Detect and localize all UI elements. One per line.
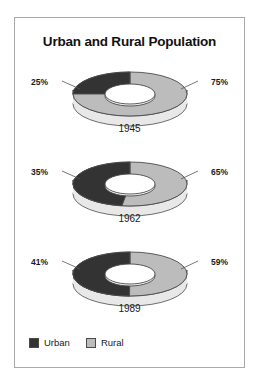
percent-label-rural: 59% xyxy=(211,257,228,267)
donut-group-1962: 35% 65% 1962 xyxy=(15,148,244,236)
chart-card: Urban and Rural Population xyxy=(14,17,245,368)
legend-label-urban: Urban xyxy=(44,337,70,348)
year-label: 1989 xyxy=(15,303,244,314)
donut-chart-1989 xyxy=(50,238,210,310)
percent-label-urban: 25% xyxy=(31,77,48,87)
year-label: 1945 xyxy=(15,123,244,134)
legend-item-rural: Rural xyxy=(86,337,124,348)
donut-chart-1945 xyxy=(50,58,210,130)
year-label: 1962 xyxy=(15,213,244,224)
legend-item-urban: Urban xyxy=(29,337,70,348)
donut-group-1945: 25% 75% 1945 xyxy=(15,58,244,146)
legend-swatch-rural xyxy=(86,338,96,348)
chart-legend: Urban Rural xyxy=(29,337,124,348)
page-title: Urban and Rural Population xyxy=(15,34,244,49)
chart-page: Urban and Rural Population xyxy=(0,0,259,382)
percent-label-urban: 35% xyxy=(31,167,48,177)
percent-label-urban: 41% xyxy=(31,257,48,267)
legend-label-rural: Rural xyxy=(101,337,124,348)
percent-label-rural: 65% xyxy=(211,167,228,177)
legend-swatch-urban xyxy=(29,338,39,348)
donut-group-1989: 41% 59% 1989 xyxy=(15,238,244,326)
donut-chart-1962 xyxy=(50,148,210,220)
percent-label-rural: 75% xyxy=(211,77,228,87)
